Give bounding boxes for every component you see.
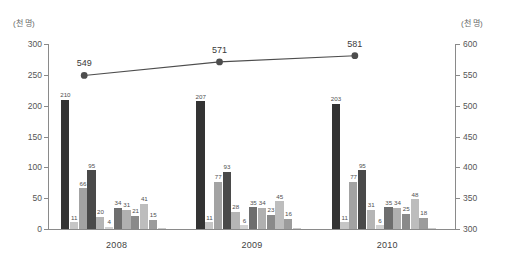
bar (79, 188, 87, 229)
bar-value-label: 34 (259, 200, 266, 206)
bar (196, 101, 204, 229)
bar (332, 104, 340, 229)
right-axis-tick-label: 550 (463, 70, 493, 80)
line-value-label: 549 (77, 58, 92, 68)
bar-group-item: 21 (131, 44, 140, 229)
x-axis-category-label: 2008 (72, 240, 162, 250)
bar-group-item: 35 (384, 44, 393, 229)
bar-group-item: 15 (149, 44, 158, 229)
right-axis-tick-label: 400 (463, 162, 493, 172)
bar (340, 222, 348, 229)
bar-value-label: 34 (115, 200, 122, 206)
left-axis-tick-label: 200 (14, 101, 42, 111)
left-axis-tick-label: 150 (14, 132, 42, 142)
bar (393, 208, 401, 229)
bar-group-item: 28 (231, 44, 240, 229)
bar-group-item: 18 (419, 44, 428, 229)
bar-group-item: 11 (70, 44, 79, 229)
left-axis-tick-mark (44, 106, 48, 107)
x-axis-category-label: 2009 (207, 240, 297, 250)
bar (376, 225, 384, 229)
bar (411, 199, 419, 229)
bar-group-item: 66 (79, 44, 88, 229)
bar-value-label: 18 (420, 210, 427, 216)
bar (96, 217, 104, 229)
bar (149, 220, 157, 229)
bar (87, 170, 95, 229)
bar (158, 228, 166, 229)
bar-value-label: 31 (123, 202, 130, 208)
bar (358, 170, 366, 229)
bar-group-item: 210 (61, 44, 70, 229)
bar (140, 204, 148, 229)
bar-group-item (428, 44, 437, 229)
bar (114, 208, 122, 229)
bar-value-label: 31 (368, 202, 375, 208)
bar-group-item: 6 (240, 44, 249, 229)
bar-group-item: 6 (376, 44, 385, 229)
bar-value-label: 11 (342, 215, 348, 221)
bar-group-item: 95 (358, 44, 367, 229)
bar-group-item: 45 (275, 44, 284, 229)
bar (214, 182, 222, 229)
line-value-label: 571 (212, 45, 227, 55)
bar-value-label: 15 (150, 212, 157, 218)
bars-plot-area: 2101166952043431214115207117793286353423… (49, 44, 455, 229)
bar-value-label: 16 (285, 211, 292, 217)
bar (240, 225, 248, 229)
bar (249, 207, 257, 229)
right-axis-tick-label: 450 (463, 132, 493, 142)
bar-value-label: 77 (215, 174, 222, 180)
bar-group-item: 95 (87, 44, 96, 229)
right-axis-tick-label: 350 (463, 193, 493, 203)
bar-value-label: 11 (71, 215, 77, 221)
right-axis-unit-label: (천 명) (461, 17, 483, 28)
bar-value-label: 35 (385, 200, 392, 206)
bar-group-item: 11 (340, 44, 349, 229)
bar-value-label: 77 (350, 174, 357, 180)
left-axis-tick-mark (44, 44, 48, 45)
bar (284, 219, 292, 229)
x-axis-line (48, 229, 456, 230)
right-axis-tick-mark (456, 44, 460, 45)
bar-group-item (293, 44, 302, 229)
left-axis-tick-label: 100 (14, 162, 42, 172)
left-axis-tick-mark (44, 198, 48, 199)
bar-value-label: 6 (243, 218, 246, 224)
bar-group-item: 203 (332, 44, 341, 229)
left-axis-tick-mark (44, 137, 48, 138)
bar-group-item: 93 (223, 44, 232, 229)
bar (267, 215, 275, 229)
left-axis-tick-label: 300 (14, 39, 42, 49)
right-axis-tick-mark (456, 198, 460, 199)
bar-value-label: 34 (394, 200, 401, 206)
x-axis-category-label: 2010 (342, 240, 432, 250)
left-axis-tick-label: 250 (14, 70, 42, 80)
bar (61, 100, 69, 230)
bar (349, 182, 357, 229)
bar-group-item: 31 (122, 44, 131, 229)
bar-group-item: 207 (196, 44, 205, 229)
bar (131, 216, 139, 229)
bar-value-label: 28 (232, 204, 239, 210)
left-axis-unit-label: (천 명) (13, 17, 35, 28)
bar-value-label: 20 (97, 209, 104, 215)
bar-value-label: 11 (206, 215, 212, 221)
bar (231, 212, 239, 229)
bar-group-item: 31 (367, 44, 376, 229)
bar-group-item: 34 (393, 44, 402, 229)
bar-value-label: 93 (224, 164, 231, 170)
bar-group-item (158, 44, 167, 229)
bar-value-label: 66 (79, 181, 86, 187)
bar-group-item: 23 (267, 44, 276, 229)
bar-group-item: 48 (411, 44, 420, 229)
bar-value-label: 41 (141, 196, 148, 202)
bar (402, 214, 410, 229)
bar-group-item: 34 (258, 44, 267, 229)
right-axis-tick-mark (456, 137, 460, 138)
bar-group-item: 16 (284, 44, 293, 229)
right-axis-tick-label: 600 (463, 39, 493, 49)
bar-group-item: 11 (205, 44, 214, 229)
bar-value-label: 45 (276, 194, 283, 200)
right-axis-tick-label: 300 (463, 224, 493, 234)
